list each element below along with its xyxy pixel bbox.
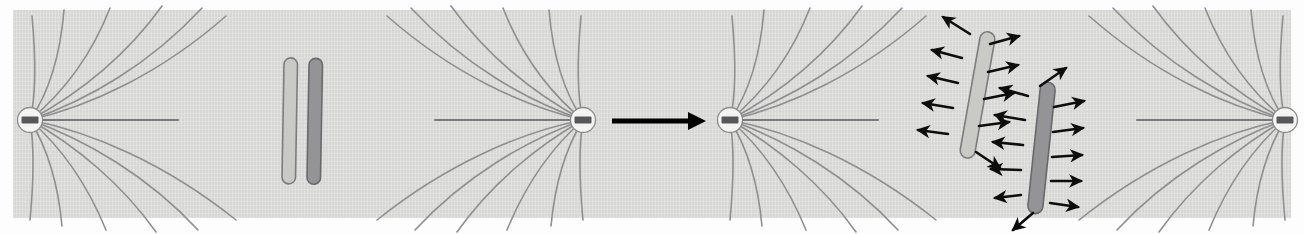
chromatid-light-forced — [959, 31, 996, 160]
chromosome-pair-with-forces — [0, 0, 1304, 234]
chromatid-dark-forced — [1027, 82, 1056, 215]
figure-root — [0, 0, 1304, 234]
